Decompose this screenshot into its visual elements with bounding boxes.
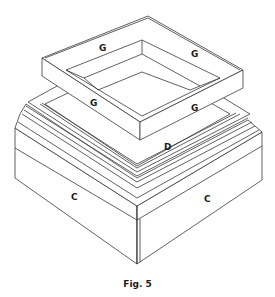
label-frame-front-left: G xyxy=(90,99,97,108)
exploded-box-drawing xyxy=(0,0,275,297)
figure-caption: Fig. 5 xyxy=(0,279,275,289)
label-top-panel: D xyxy=(164,143,171,152)
label-base-right-face: C xyxy=(204,195,211,204)
label-base-left-face: C xyxy=(71,193,78,202)
label-frame-back-right: G xyxy=(191,50,198,59)
label-frame-front-right: G xyxy=(191,104,198,113)
label-frame-back-left: G xyxy=(99,44,106,53)
